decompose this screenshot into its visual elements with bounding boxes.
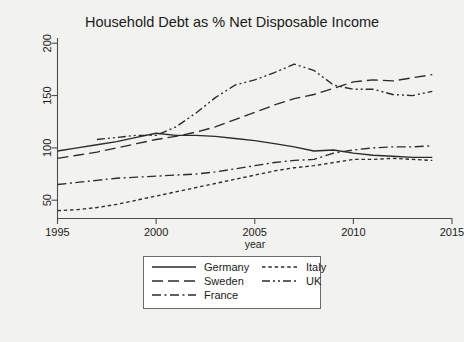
legend-label-sweden: Sweden	[204, 275, 244, 287]
legend-label-uk: UK	[306, 275, 322, 287]
chart-screenshot: Household Debt as % Net Disposable Incom…	[0, 0, 464, 342]
y-tick-label-50: 50	[42, 194, 54, 206]
legend-label-italy: Italy	[306, 261, 327, 273]
x-tick-label-2010: 2010	[341, 226, 365, 238]
y-tick-label-200: 200	[42, 34, 54, 52]
chart-legend: GermanySwedenFranceItalyUK	[144, 257, 327, 309]
x-tick-label-2000: 2000	[144, 226, 168, 238]
y-tick-label-100: 100	[42, 139, 54, 157]
legend-label-france: France	[204, 289, 238, 301]
chart-title: Household Debt as % Net Disposable Incom…	[85, 14, 379, 30]
legend-label-germany: Germany	[204, 261, 250, 273]
x-tick-label-2015: 2015	[440, 226, 464, 238]
line-chart: Household Debt as % Net Disposable Incom…	[0, 0, 464, 342]
y-tick-label-150: 150	[42, 86, 54, 104]
x-axis-label: year	[245, 238, 266, 250]
x-tick-label-1995: 1995	[45, 226, 69, 238]
x-tick-label-2005: 2005	[243, 226, 267, 238]
